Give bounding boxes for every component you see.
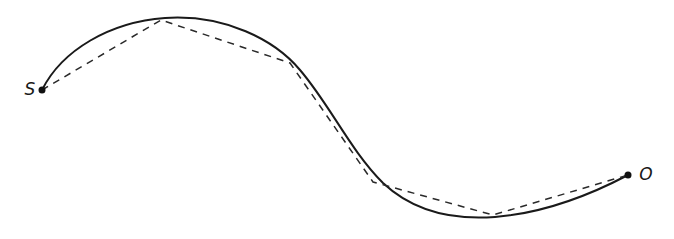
end-point-marker — [625, 172, 632, 179]
end-point-label: O — [639, 164, 652, 184]
start-point-marker — [39, 87, 46, 94]
start-point-label: S — [25, 79, 36, 99]
curve-approximation-diagram: S O — [0, 0, 674, 239]
smooth-path-curve — [42, 18, 628, 218]
